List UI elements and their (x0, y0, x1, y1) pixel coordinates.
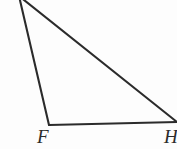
triangle-edge-apex-to-h (19, 0, 177, 122)
triangle-shape (0, 0, 177, 149)
vertex-label-f: F (37, 127, 49, 146)
vertex-label-h: H (164, 127, 177, 146)
triangle-figure: F H (0, 0, 177, 149)
triangle-edge-f-to-h (49, 122, 177, 125)
triangle-edge-apex-to-f (19, 0, 49, 125)
